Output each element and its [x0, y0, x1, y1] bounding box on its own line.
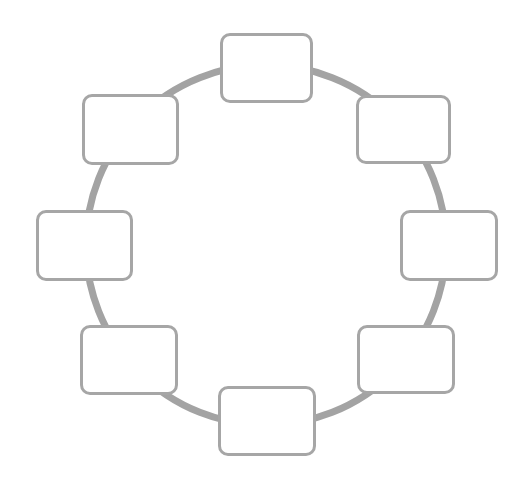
cycle-node-bottom: [218, 386, 316, 456]
cycle-node-left: [36, 210, 133, 281]
cycle-node-bottom-right: [357, 325, 455, 394]
cycle-node-top: [220, 33, 313, 103]
cycle-node-right: [400, 210, 498, 281]
cycle-node-bottom-left: [80, 325, 178, 395]
cycle-node-top-right: [356, 95, 451, 164]
cycle-node-top-left: [82, 94, 179, 165]
